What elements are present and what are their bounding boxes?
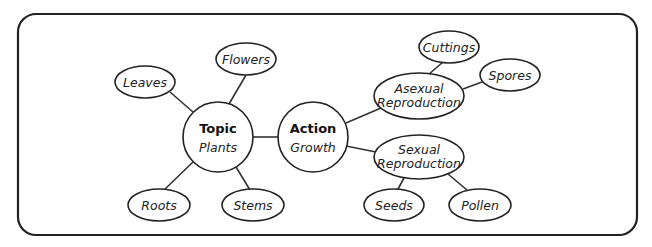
node-action: Action Growth <box>278 102 348 172</box>
node-spores: Spores <box>480 59 540 91</box>
node-stems: Stems <box>222 189 284 221</box>
node-stems-label: Stems <box>233 198 273 213</box>
node-leaves-label: Leaves <box>123 75 167 90</box>
node-seeds-label: Seeds <box>375 198 413 213</box>
node-sexual-line1: Sexual <box>398 142 441 157</box>
node-leaves: Leaves <box>115 66 175 98</box>
node-roots: Roots <box>128 189 190 221</box>
node-topic-subtitle: Plants <box>199 140 237 155</box>
node-action-title: Action <box>290 121 337 136</box>
node-sexual-line2: Reproduction <box>377 156 461 171</box>
node-asexual-reproduction: Asexual Reproduction <box>374 73 464 119</box>
node-pollen: Pollen <box>449 189 511 221</box>
node-action-subtitle: Growth <box>290 140 336 155</box>
node-cuttings: Cuttings <box>419 31 479 63</box>
node-flowers-label: Flowers <box>222 52 270 67</box>
node-cuttings-label: Cuttings <box>423 40 476 55</box>
node-spores-label: Spores <box>489 68 532 83</box>
node-sexual-reproduction: Sexual Reproduction <box>374 135 464 179</box>
node-topic: Topic Plants <box>183 102 253 172</box>
node-roots-label: Roots <box>141 198 177 213</box>
node-asexual-line2: Reproduction <box>377 95 461 110</box>
concept-map-canvas: Topic Plants Action Growth Leaves Flower… <box>0 0 652 247</box>
node-pollen-label: Pollen <box>461 198 499 213</box>
node-asexual-line1: Asexual <box>393 81 444 96</box>
node-seeds: Seeds <box>364 189 424 221</box>
node-topic-title: Topic <box>199 121 237 136</box>
node-flowers: Flowers <box>216 43 276 75</box>
